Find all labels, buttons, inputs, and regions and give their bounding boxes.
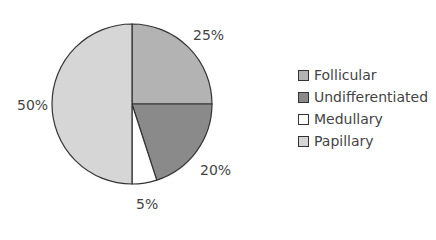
legend-label: Papillary bbox=[314, 133, 374, 149]
legend-label: Follicular bbox=[314, 67, 377, 83]
legend-item-medullary: Medullary bbox=[298, 108, 428, 130]
legend-swatch bbox=[298, 70, 309, 81]
legend-item-follicular: Follicular bbox=[298, 64, 428, 86]
slice-label-undifferentiated: 20% bbox=[200, 162, 231, 178]
slice-label-medullary: 5% bbox=[136, 196, 158, 212]
legend: Follicular Undifferentiated Medullary Pa… bbox=[298, 64, 428, 152]
slice-label-follicular: 25% bbox=[193, 27, 224, 43]
pie-slice-papillary bbox=[52, 24, 132, 184]
legend-swatch bbox=[298, 114, 309, 125]
legend-item-undifferentiated: Undifferentiated bbox=[298, 86, 428, 108]
legend-label: Medullary bbox=[314, 111, 383, 127]
legend-swatch bbox=[298, 92, 309, 103]
legend-swatch bbox=[298, 136, 309, 147]
legend-label: Undifferentiated bbox=[314, 89, 428, 105]
legend-item-papillary: Papillary bbox=[298, 130, 428, 152]
slice-label-papillary: 50% bbox=[17, 97, 48, 113]
